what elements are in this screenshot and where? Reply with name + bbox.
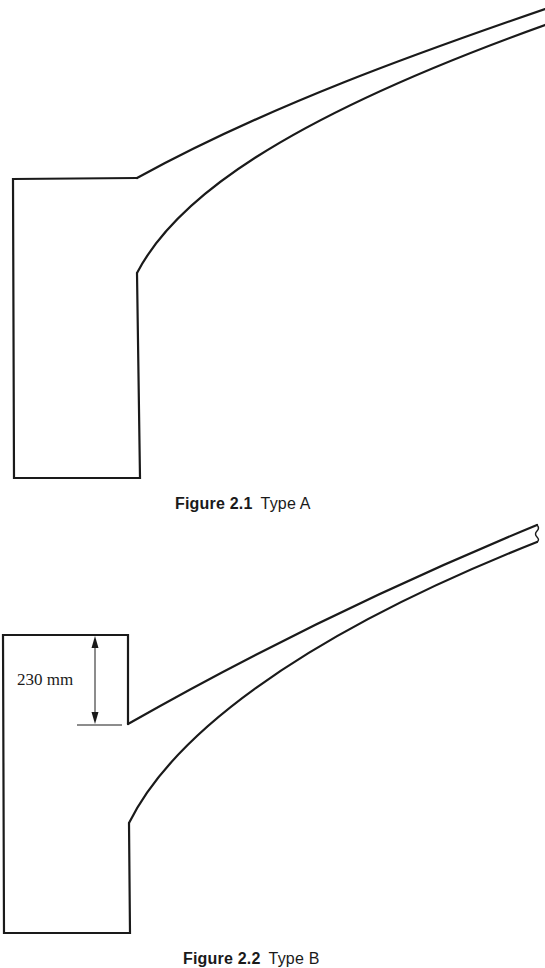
figure-title: Type B (269, 950, 320, 967)
figure-2-1-caption: Figure 2.1Type A (175, 495, 311, 513)
figure-2-1-shape (13, 9, 545, 478)
type-b-break-line (536, 525, 539, 542)
type-a-base-block (13, 178, 140, 478)
figure-2-2-caption: Figure 2.2Type B (183, 950, 320, 968)
figure-number: Figure 2.2 (183, 950, 261, 967)
dimension-230mm (77, 636, 122, 725)
arrowhead-down-icon (92, 712, 99, 724)
type-b-lower-arm-edge (129, 542, 537, 823)
type-a-lower-arm-edge (137, 25, 545, 273)
arrowhead-up-icon (92, 636, 99, 648)
type-a-upper-arm-edge (137, 9, 545, 178)
figure-number: Figure 2.1 (175, 495, 253, 512)
figure-2-2-shape (3, 525, 539, 933)
figure-title: Type A (261, 495, 311, 512)
type-b-upper-arm-edge (128, 525, 537, 724)
dimension-label: 230 mm (17, 670, 73, 690)
